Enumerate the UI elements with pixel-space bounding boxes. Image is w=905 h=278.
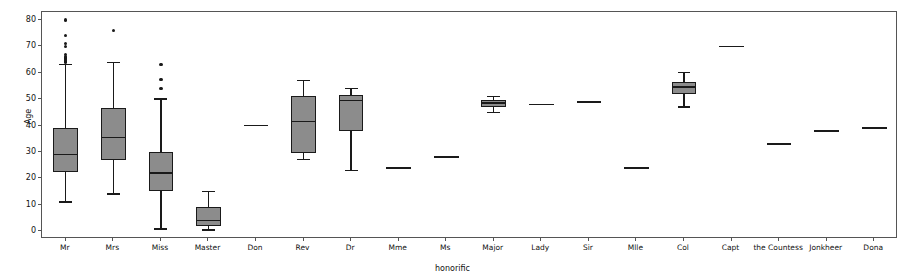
x-tick-mark <box>398 238 399 241</box>
x-tick-label-jonkheer: Jonkheer <box>809 243 842 252</box>
x-tick-mark <box>873 238 874 241</box>
x-tick-mark <box>540 238 541 241</box>
x-tick-label-major: Major <box>482 243 503 252</box>
x-tick-label-miss: Miss <box>152 243 168 252</box>
y-tick-label: 40 <box>10 120 36 129</box>
x-tick-mark <box>207 238 208 241</box>
x-tick-mark <box>445 238 446 241</box>
x-tick-mark <box>65 238 66 241</box>
x-tick-label-sir: Sir <box>583 243 593 252</box>
x-tick-label-mrs: Mrs <box>106 243 119 252</box>
boxplot-figure: Age 01020304050607080 MrMrsMissMasterDon… <box>0 0 905 278</box>
x-tick-label-capt: Capt <box>722 243 740 252</box>
x-tick-label-lady: Lady <box>531 243 549 252</box>
x-tick-label-ms: Ms <box>440 243 450 252</box>
x-tick-mark <box>255 238 256 241</box>
x-tick-label-col: Col <box>677 243 689 252</box>
y-tick-label: 70 <box>10 41 36 50</box>
x-axis-label: honorific <box>0 264 905 273</box>
x-tick-mark <box>493 238 494 241</box>
x-tick-mark <box>160 238 161 241</box>
y-tick-label: 30 <box>10 146 36 155</box>
y-tick-label: 20 <box>10 173 36 182</box>
x-tick-label-mme: Mme <box>388 243 406 252</box>
boxplot-dona <box>42 12 896 237</box>
plot-content <box>42 12 896 237</box>
plot-area <box>41 11 897 238</box>
y-tick-label: 10 <box>10 199 36 208</box>
x-tick-mark <box>635 238 636 241</box>
x-tick-label-mr: Mr <box>60 243 70 252</box>
y-tick-label: 0 <box>10 226 36 235</box>
y-tick-label: 80 <box>10 14 36 23</box>
x-tick-label-don: Don <box>247 243 262 252</box>
x-tick-label-dona: Dona <box>863 243 883 252</box>
x-tick-mark <box>588 238 589 241</box>
x-tick-label-master: Master <box>195 243 221 252</box>
x-tick-mark <box>112 238 113 241</box>
x-tick-mark <box>683 238 684 241</box>
x-tick-mark <box>826 238 827 241</box>
x-tick-mark <box>350 238 351 241</box>
x-tick-label-the-countess: the Countess <box>753 243 802 252</box>
x-tick-mark <box>778 238 779 241</box>
x-tick-mark <box>303 238 304 241</box>
x-tick-label-mlle: Mlle <box>628 243 643 252</box>
x-tick-label-dr: Dr <box>346 243 355 252</box>
x-tick-label-rev: Rev <box>296 243 310 252</box>
y-tick-label: 50 <box>10 94 36 103</box>
box-single-value-line <box>862 127 887 129</box>
x-tick-mark <box>731 238 732 241</box>
y-tick-label: 60 <box>10 67 36 76</box>
